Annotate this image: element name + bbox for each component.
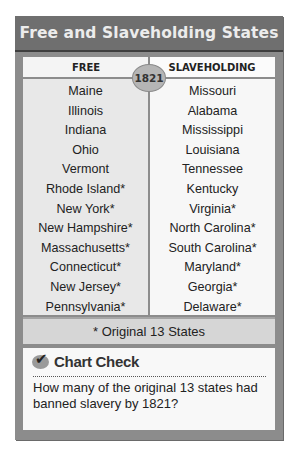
chart-frame: Free and Slaveholding States FREE SLAVEH… (15, 16, 283, 440)
slaveholding-state: Tennessee (150, 160, 275, 180)
free-state: Ohio (23, 141, 148, 161)
slaveholding-state: Maryland* (150, 258, 275, 278)
chart-header: Free and Slaveholding States (15, 16, 283, 52)
free-state: Rhode Island* (23, 180, 148, 200)
free-state: Connecticut* (23, 258, 148, 278)
slaveholding-state: Alabama (150, 102, 275, 122)
free-state: New Jersey* (23, 278, 148, 298)
dotted-divider (33, 376, 266, 377)
chart-check-heading: ✔ Chart Check (32, 353, 139, 370)
free-state: Illinois (23, 102, 148, 122)
slaveholding-state: Georgia* (150, 278, 275, 298)
chart-check-box: ✔ Chart Check How many of the original 1… (23, 348, 275, 430)
slaveholding-state: North Carolina* (150, 219, 275, 239)
free-state: Vermont (23, 160, 148, 180)
free-state: Massachusetts* (23, 239, 148, 259)
slaveholding-state: Virginia* (150, 200, 275, 220)
free-state: New Hampshire* (23, 219, 148, 239)
free-state: Indiana (23, 121, 148, 141)
footnote: * Original 13 States (23, 317, 275, 344)
slaveholding-state: Delaware* (150, 298, 275, 318)
free-state: New York* (23, 200, 148, 220)
chart-title: Free and Slaveholding States (19, 24, 278, 42)
states-table: FREE SLAVEHOLDING 1821 Maine Illinois In… (23, 57, 275, 315)
chart-check-question: How many of the original 13 states had b… (33, 380, 268, 412)
year-badge: 1821 (132, 64, 166, 92)
checkmark-icon: ✔ (32, 355, 49, 369)
slaveholding-state: Kentucky (150, 180, 275, 200)
free-state: Pennsylvania* (23, 298, 148, 318)
slaveholding-states-column: Missouri Alabama Mississippi Louisiana T… (150, 79, 275, 315)
column-header-free: FREE (23, 57, 149, 79)
column-header-slaveholding: SLAVEHOLDING (149, 57, 275, 79)
free-state: Maine (23, 82, 148, 102)
slaveholding-state: Louisiana (150, 141, 275, 161)
chart-check-title: Chart Check (54, 353, 139, 370)
slaveholding-state: Missouri (150, 82, 275, 102)
slaveholding-state: Mississippi (150, 121, 275, 141)
slaveholding-state: South Carolina* (150, 239, 275, 259)
free-states-column: Maine Illinois Indiana Ohio Vermont Rhod… (23, 79, 148, 315)
